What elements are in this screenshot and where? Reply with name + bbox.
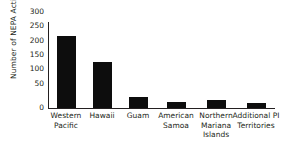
y-tick-label: 100 bbox=[22, 64, 44, 74]
bar-slot bbox=[84, 22, 120, 108]
bar-slot bbox=[48, 22, 84, 108]
y-axis-title: Number of NEPA Actions bbox=[8, 0, 20, 79]
y-tick-label: 0 bbox=[22, 103, 44, 113]
bar-guam[interactable] bbox=[129, 97, 148, 108]
x-tick-label-additional-pi-territories: Additional PITerritories bbox=[232, 111, 280, 130]
bar-american-samoa[interactable] bbox=[167, 102, 186, 108]
y-tick-label: 50 bbox=[22, 79, 44, 89]
x-tick-label-line: Territories bbox=[232, 121, 280, 131]
y-tick-label: 200 bbox=[22, 36, 44, 46]
x-tick-label-line: Islands bbox=[192, 130, 240, 140]
x-tick-label-line: Pacific bbox=[42, 121, 90, 131]
bar-slot bbox=[198, 22, 234, 108]
x-tick-label-line: Additional PI bbox=[232, 111, 280, 121]
y-tick-label: 300 bbox=[22, 7, 44, 17]
plot-area bbox=[48, 22, 275, 108]
bar-western-pacific[interactable] bbox=[57, 36, 76, 108]
y-tick-label: 250 bbox=[22, 21, 44, 31]
bar-slot bbox=[120, 22, 156, 108]
bar-northern-mariana-islands[interactable] bbox=[207, 100, 226, 108]
bar-slot bbox=[158, 22, 194, 108]
x-axis-line bbox=[48, 108, 275, 109]
bar-chart-figure: Number of NEPA Actions 300 250 200 150 1… bbox=[0, 0, 286, 144]
y-tick-label: 150 bbox=[22, 50, 44, 60]
bar-slot bbox=[238, 22, 274, 108]
y-axis-tick-labels: 300 250 200 150 100 50 0 bbox=[20, 0, 44, 144]
bar-hawaii[interactable] bbox=[93, 62, 112, 108]
bar-additional-pi-territories[interactable] bbox=[247, 103, 266, 108]
